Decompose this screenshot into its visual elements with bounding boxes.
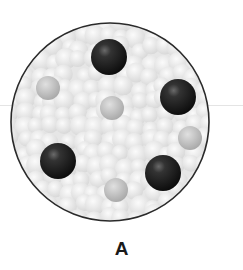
- background-particle: [144, 13, 161, 30]
- background-particle: [192, 179, 214, 201]
- background-particle: [195, 18, 212, 35]
- background-particle: [14, 35, 36, 57]
- background-particle: [20, 194, 37, 211]
- gray-particle: [104, 178, 128, 202]
- background-particle: [181, 25, 201, 45]
- background-particle: [17, 180, 37, 200]
- background-particle: [182, 205, 204, 227]
- background-particle: [16, 204, 37, 225]
- background-particle: [3, 15, 20, 32]
- background-particle: [200, 206, 218, 224]
- background-particle: [2, 210, 22, 230]
- background-particle: [199, 36, 217, 54]
- background-particle: [200, 53, 221, 74]
- background-particle: [194, 63, 213, 82]
- background-particle: [169, 193, 190, 214]
- dark-particle: [91, 39, 127, 75]
- background-particle: [56, 117, 73, 134]
- background-particle: [104, 222, 121, 239]
- background-particle: [160, 207, 177, 224]
- background-particle: [7, 182, 23, 198]
- background-particle: [0, 38, 17, 58]
- background-particle: [156, 217, 177, 238]
- background-particle: [26, 16, 46, 36]
- background-particle: [111, 209, 129, 227]
- background-particle: [59, 10, 78, 29]
- gray-particle: [36, 76, 60, 100]
- background-particle: [30, 211, 49, 230]
- background-particle: [198, 23, 220, 45]
- background-particle: [0, 194, 20, 214]
- background-particle: [194, 193, 214, 213]
- gray-particle: [100, 96, 124, 120]
- background-particle: [182, 180, 202, 200]
- background-particle: [0, 159, 17, 177]
- background-particle: [16, 25, 37, 46]
- dark-particle: [160, 79, 196, 115]
- background-particle: [0, 53, 17, 71]
- background-particle: [113, 76, 133, 96]
- background-particle: [144, 218, 164, 238]
- background-particle: [141, 107, 157, 123]
- background-particle: [0, 166, 20, 186]
- background-particle: [193, 169, 215, 191]
- background-particle: [0, 127, 19, 146]
- dark-particle: [40, 143, 76, 179]
- background-particle: [5, 27, 22, 44]
- background-particle: [82, 220, 100, 238]
- gray-particle: [178, 126, 202, 150]
- background-particle: [182, 38, 198, 54]
- background-particle: [195, 155, 214, 174]
- background-particle: [13, 13, 32, 32]
- background-particle: [186, 13, 204, 31]
- background-particle: [160, 14, 177, 31]
- particle-diagram: [0, 0, 243, 270]
- background-particle: [42, 11, 63, 32]
- background-particle: [32, 24, 49, 41]
- figure-label: A: [0, 238, 243, 260]
- background-particle: [185, 195, 202, 212]
- background-particle: [167, 212, 183, 228]
- dark-particle: [145, 155, 181, 191]
- background-particle: [0, 61, 21, 83]
- background-particle: [166, 26, 184, 44]
- background-particle: [17, 221, 33, 237]
- background-particle: [171, 13, 188, 30]
- background-particle: [56, 220, 74, 238]
